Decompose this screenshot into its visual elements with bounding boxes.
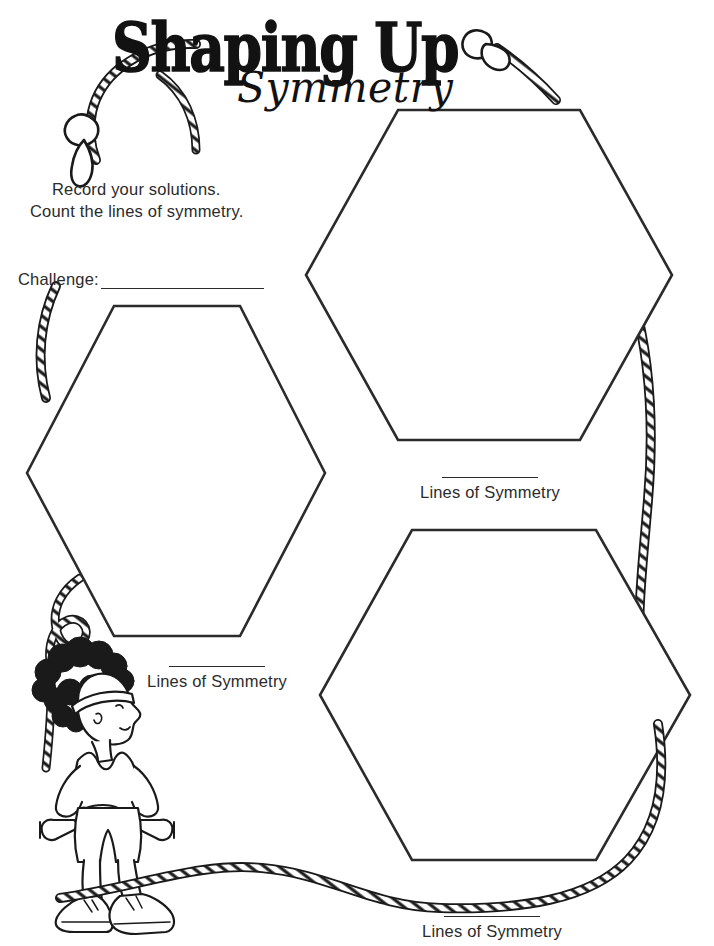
page-subtitle: Symmetry <box>237 66 454 109</box>
answer-input-hexagon-top-right[interactable] <box>442 477 538 478</box>
lines-of-symmetry-label: Lines of Symmetry <box>422 922 562 940</box>
challenge-input[interactable] <box>101 274 264 289</box>
worksheet-text: Shaping Up Symmetry Record your solution… <box>0 0 714 946</box>
lines-of-symmetry-label: Lines of Symmetry <box>420 483 560 501</box>
instruction-line-2: Count the lines of symmetry. <box>30 200 243 222</box>
answer-input-hexagon-left[interactable] <box>169 666 265 667</box>
challenge-field: Challenge: <box>18 270 264 289</box>
instructions: Record your solutions. Count the lines o… <box>52 178 243 222</box>
instruction-line-1: Record your solutions. <box>52 178 243 200</box>
lines-of-symmetry-group-left: Lines of Symmetry <box>147 666 287 690</box>
challenge-label: Challenge: <box>18 270 99 289</box>
lines-of-symmetry-group-bottom-right: Lines of Symmetry <box>422 916 562 940</box>
worksheet-page: Shaping Up Symmetry Record your solution… <box>0 0 714 946</box>
lines-of-symmetry-label: Lines of Symmetry <box>147 672 287 690</box>
answer-input-hexagon-bottom-right[interactable] <box>444 916 540 917</box>
lines-of-symmetry-group-top-right: Lines of Symmetry <box>420 477 560 501</box>
